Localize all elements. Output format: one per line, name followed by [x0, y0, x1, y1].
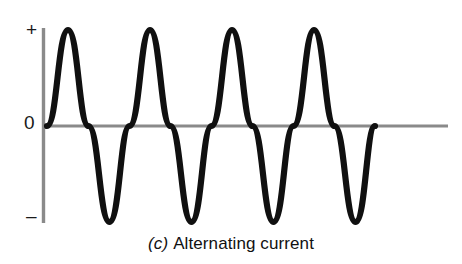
waveform-svg [0, 0, 462, 232]
figure-caption-text: Alternating current [173, 234, 314, 253]
y-axis-negative-label: – [26, 206, 37, 225]
y-axis-positive-label: + [26, 20, 37, 39]
figure-caption: (c)Alternating current [0, 234, 462, 254]
figure-caption-index: (c) [148, 234, 168, 253]
y-axis-zero-label: 0 [24, 113, 35, 132]
waveform-plot-area: + 0 – [0, 0, 462, 232]
alternating-current-figure: + 0 – (c)Alternating current [0, 0, 462, 264]
